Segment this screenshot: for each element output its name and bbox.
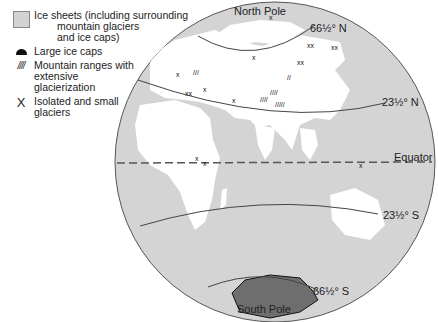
svg-text:x: x xyxy=(232,97,236,104)
equator-label: Equator xyxy=(394,151,433,163)
svg-text:///: /// xyxy=(193,69,199,76)
tropic-cancer-label: 23½° N xyxy=(382,96,419,108)
antarctic-circle-label: 66½° S xyxy=(313,285,349,297)
svg-text:xx: xx xyxy=(297,59,305,66)
svg-text://///: ///// xyxy=(275,101,285,108)
svg-text:x: x xyxy=(203,86,207,93)
globe-map: xxxx xxxx xxx xxxxx ///////////// ///// xyxy=(0,0,438,322)
svg-text:////: //// xyxy=(270,89,278,96)
svg-text:x: x xyxy=(359,162,363,169)
svg-text:////: //// xyxy=(260,96,268,103)
arctic-circle-label: 66½° N xyxy=(310,22,347,34)
north-pole-label: North Pole xyxy=(234,5,286,17)
svg-text:xx: xx xyxy=(185,90,193,97)
svg-text:xx: xx xyxy=(331,44,339,51)
tropic-capricorn-label: 23½° S xyxy=(383,209,419,221)
svg-text://: // xyxy=(287,74,291,81)
svg-text:x: x xyxy=(252,54,256,61)
svg-text:x: x xyxy=(176,71,180,78)
svg-text:x: x xyxy=(195,155,199,162)
svg-text:x: x xyxy=(203,160,207,167)
south-pole-label: South Pole xyxy=(237,303,291,315)
svg-text:xx: xx xyxy=(307,42,315,49)
